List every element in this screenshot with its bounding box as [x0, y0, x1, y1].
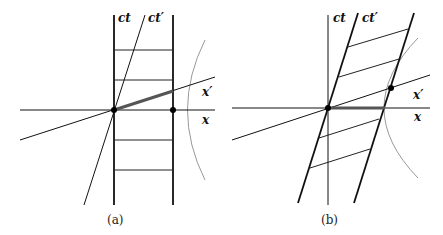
event-dot-b	[388, 85, 394, 91]
rung-b-2	[339, 59, 399, 77]
label-ct-a: ct	[118, 11, 131, 25]
caption-b: (b)	[321, 213, 338, 227]
label-x-prime-a: x′	[201, 85, 213, 99]
event-dot-a	[170, 107, 176, 113]
panel-a: ct ct′ x′ x (a)	[20, 11, 215, 227]
spacetime-diagrams: ct ct′ x′ x (a) ct ct′ x′ x (b)	[0, 0, 443, 235]
origin-dot-a	[111, 107, 117, 113]
rung-b-1	[348, 29, 408, 47]
rung-b-4	[310, 149, 370, 168]
label-ct-b: ct	[333, 11, 346, 25]
label-x-prime-b: x′	[412, 88, 424, 102]
label-ct-prime-a: ct′	[148, 11, 165, 25]
origin-dot-b	[325, 105, 331, 111]
panel-b: ct ct′ x′ x (b)	[232, 11, 430, 227]
label-x-b: x	[413, 110, 422, 124]
label-ct-prime-b: ct′	[362, 11, 379, 25]
label-x-a: x	[201, 113, 210, 127]
caption-a: (a)	[107, 213, 124, 227]
highlight-segment-a	[114, 91, 173, 110]
